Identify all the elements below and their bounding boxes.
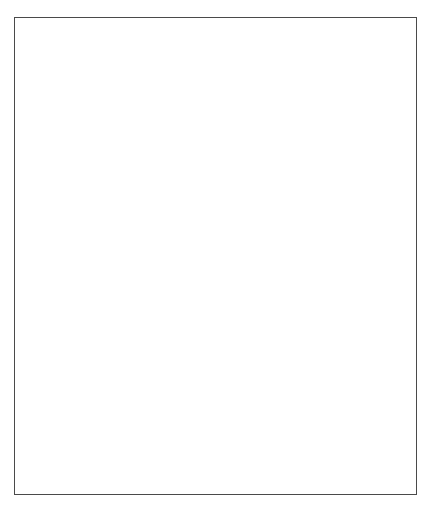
chart-tax-share (15, 18, 416, 494)
tax-share-plot (15, 18, 418, 496)
figure-caption (14, 503, 417, 517)
figure-frame (14, 17, 417, 495)
